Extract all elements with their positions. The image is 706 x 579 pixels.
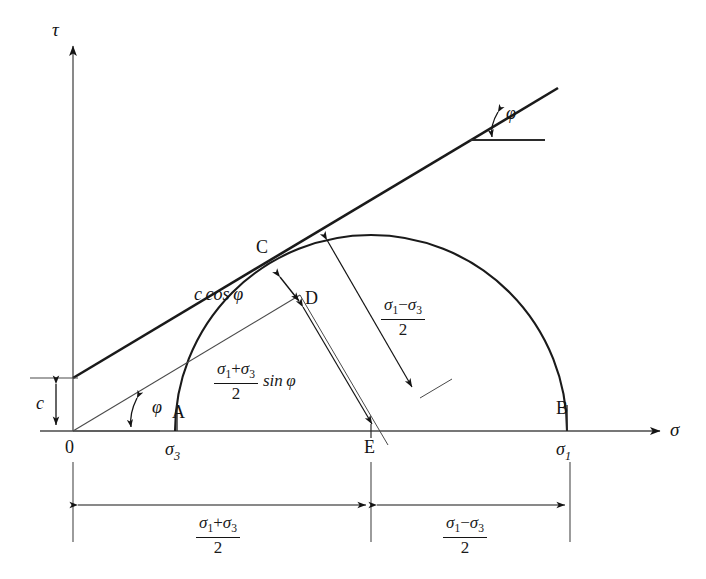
dim-left-sigma3-sub: 3 [231,522,237,535]
mohr-coulomb-diagram: τ σ 0 c φ φ A B C D E σ3 σ1 c cos φ σ1−σ… [0,0,706,579]
mean-sin-phi-formula: σ1+σ3 2 sin φ [214,360,296,402]
origin-label: 0 [65,438,74,456]
radius-operator: − [398,295,408,314]
dim-left-operator: + [213,513,223,532]
radius-formula: σ1−σ3 2 [381,296,425,338]
dim-left-sigma3: σ [223,513,231,532]
point-label-e: E [364,438,375,456]
diagram-canvas [0,0,706,579]
failure-envelope-line [73,88,558,378]
sigma1-label: σ1 [556,440,571,462]
dim-right-numerator: σ1−σ3 [443,514,487,538]
radius-numerator: σ1−σ3 [381,296,425,320]
mean-numerator: σ1+σ3 [214,360,258,384]
dim-right-sigma3: σ [470,513,478,532]
mean-fraction: σ1+σ3 2 [214,360,258,402]
point-label-b: B [556,399,568,417]
mean-denominator: 2 [232,384,241,403]
mean-sigma3-sub: 3 [249,368,255,381]
phi-angle-origin [73,398,160,431]
dim-right-denominator: 2 [461,538,470,557]
radius-sigma3-sub: 3 [416,304,422,317]
point-label-d: D [305,289,318,307]
mean-sigma3: σ [241,359,249,378]
axis-label-tau: τ [52,20,59,39]
radius-denominator: 2 [399,320,408,339]
dimension-left-label: σ1+σ3 2 [196,514,240,556]
phi-label-origin: φ [152,398,162,416]
point-label-a: A [172,403,185,421]
sigma1-subscript: 1 [565,449,571,463]
sigma1-symbol: σ [556,439,565,459]
dim-left-numerator: σ1+σ3 [196,514,240,538]
phi-label-envelope: φ [506,104,516,122]
dimension-extension-lines [73,462,570,542]
dim-right-operator: − [460,513,470,532]
radius-sigma3: σ [408,295,416,314]
sin-phi-label: sin φ [263,371,296,391]
mean-operator: + [231,359,241,378]
dim-left-denominator: 2 [214,538,223,557]
sigma3-symbol: σ [165,439,174,459]
point-label-c: C [256,238,268,256]
dimension-right-label: σ1−σ3 2 [443,514,487,556]
segment-de-dimension [300,295,388,445]
c-cos-phi-label: c cos φ [194,285,243,303]
sigma3-label: σ3 [165,440,180,462]
segment-cd-dimension [280,277,299,301]
axis-label-sigma: σ [670,420,679,439]
sigma3-subscript: 3 [174,449,180,463]
dim-right-sigma3-sub: 3 [478,522,484,535]
cohesion-label: c [36,394,44,412]
